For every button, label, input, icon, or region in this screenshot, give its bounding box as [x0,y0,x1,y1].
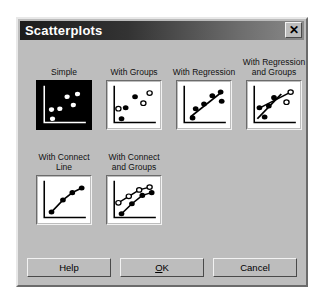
gallery-item-with-connect-line[interactable]: With Connect Line [33,152,95,225]
thumbnail-frame[interactable] [106,175,162,225]
thumbnail-plot [108,177,160,223]
cancel-button[interactable]: Cancel [213,258,297,277]
dialog-title: Scatterplots [25,23,103,38]
gallery-item-label: With Connect Line [28,152,100,172]
gallery-item-simple[interactable]: Simple [33,67,95,130]
thumbnail-plot [248,82,300,128]
thumbnail-plot [38,177,90,223]
scatter-connect-groups-icon [108,177,160,223]
close-icon: ✕ [289,24,299,36]
dialog-body: Simple [20,40,304,285]
help-button[interactable]: Help [27,258,111,277]
gallery-row-1: Simple [33,57,313,130]
help-button-label: Help [59,262,79,273]
dialog-titlebar[interactable]: Scatterplots ✕ [20,21,304,40]
thumbnail-frame[interactable] [176,80,232,130]
gallery-item-with-groups[interactable]: With Groups [103,67,165,130]
gallery-item-label: With Groups [98,67,170,77]
ok-button[interactable]: OK [120,258,204,277]
scatter-connect-line-icon [38,177,90,223]
gallery-item-with-regression[interactable]: With Regression [173,67,235,130]
gallery-item-label: Simple [28,67,100,77]
ok-button-accel: O [155,262,162,273]
scatter-groups-icon [108,82,160,128]
scatter-regression-groups-icon [248,82,300,128]
thumbnail-frame[interactable] [246,80,302,130]
thumbnail-frame[interactable] [36,175,92,225]
gallery-item-label: With Connect and Groups [98,152,170,172]
scatter-regression-icon [178,82,230,128]
thumbnail-plot [38,82,90,128]
gallery-item-label: With Regression [168,67,240,77]
scatterplots-dialog: Scatterplots ✕ Simple [16,17,308,287]
gallery-item-label: With Regression and Groups [238,57,310,77]
gallery-item-with-regression-and-groups[interactable]: With Regression and Groups [243,57,305,130]
thumbnail-frame[interactable] [36,80,92,130]
screenshot-root: Scatterplots ✕ Simple [0,0,324,302]
ok-button-label: K [163,262,169,273]
cancel-button-label: Cancel [240,262,270,273]
dialog-button-bar: Help OK Cancel [20,258,304,277]
close-button[interactable]: ✕ [285,22,302,38]
thumbnail-plot [108,82,160,128]
thumbnail-plot [178,82,230,128]
gallery-row-2: With Connect Line [33,152,173,225]
thumbnail-frame[interactable] [106,80,162,130]
gallery-item-with-connect-and-groups[interactable]: With Connect and Groups [103,152,165,225]
scatter-simple-icon [38,82,90,128]
